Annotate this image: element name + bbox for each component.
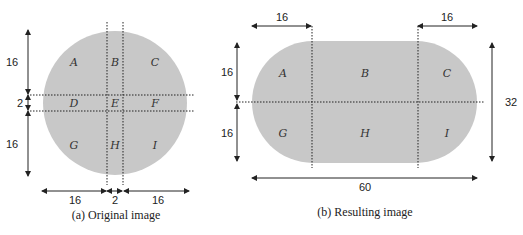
dim-a-v2: 2 [17,97,23,109]
dim-b-top-right: 16 [441,11,453,23]
figure-b: A B C G H I 16 16 16 16 32 60 (b) Result… [221,11,517,219]
region-g: G [70,139,79,152]
caption-b: (b) Resulting image [317,205,412,219]
region-a: A [69,56,78,69]
region-i: I [152,139,158,152]
region-i: I [444,127,450,140]
dim-a-h3: 16 [152,194,164,206]
region-b: B [360,67,369,80]
figure-a: A B C D E F G H I 16 2 16 16 2 16 (a) Or… [6,22,195,222]
dim-b-bottom: 60 [359,181,371,193]
dim-b-right: 32 [505,96,517,108]
dim-b-left-top: 16 [221,66,233,78]
dim-a-v1: 16 [6,56,18,68]
dim-a-v3: 16 [6,138,18,150]
region-h: H [109,139,120,152]
region-a: A [278,67,287,80]
diagram-canvas: A B C D E F G H I 16 2 16 16 2 16 (a) Or… [0,0,523,235]
region-e: E [110,97,119,110]
region-b: B [110,56,119,69]
dim-a-h2: 2 [112,194,118,206]
region-c: C [443,67,452,80]
region-f: F [150,97,159,110]
dim-b-top-left: 16 [276,11,288,23]
caption-a: (a) Original image [72,208,161,222]
dim-b-left-bottom: 16 [221,127,233,139]
region-c: C [151,56,160,69]
dim-a-h1: 16 [69,194,81,206]
region-h: H [359,127,370,140]
region-d: D [69,97,79,110]
region-g: G [279,127,288,140]
